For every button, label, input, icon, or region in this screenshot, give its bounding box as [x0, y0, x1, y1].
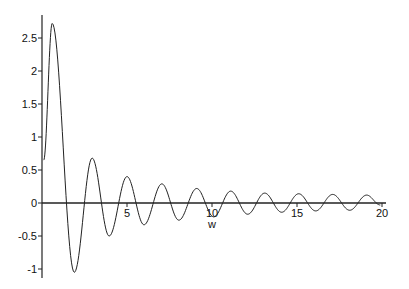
x-axis-label: w [207, 218, 216, 230]
x-tick-label: 5 [124, 207, 130, 219]
y-tick-label: 2.5 [22, 32, 37, 44]
x-tick-label: 15 [291, 207, 303, 219]
y-tick-label: 2 [31, 65, 37, 77]
y-tick-label: 0 [31, 197, 37, 209]
y-tick-label: -0.5 [18, 230, 37, 242]
line-chart: -1-0.500.511.522.5 5101520 w [0, 0, 409, 289]
y-tick-label: 1 [31, 131, 37, 143]
data-curve [44, 23, 381, 272]
x-tick-label: 20 [376, 207, 388, 219]
y-axis: -1-0.500.511.522.5 [18, 15, 42, 278]
y-tick-label: 0.5 [22, 164, 37, 176]
y-tick-label: -1 [27, 263, 37, 275]
y-tick-label: 1.5 [22, 98, 37, 110]
